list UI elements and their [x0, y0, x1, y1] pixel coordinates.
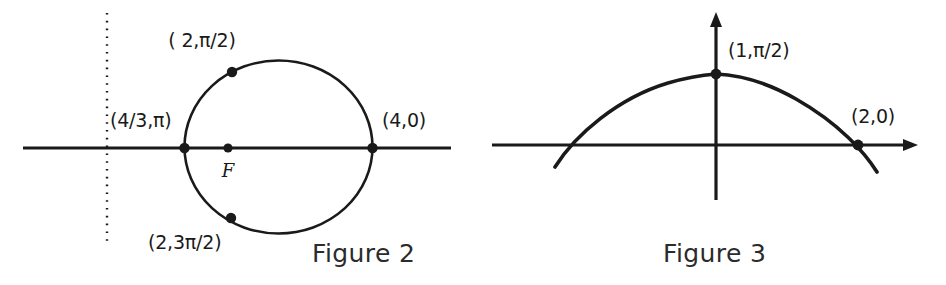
point-marker-right [367, 143, 377, 153]
x-axis-arrow-icon [903, 139, 918, 151]
figures-svg: ( 2,π/2) (4/3,π) (4,0) (2,3π/2) F Figure… [0, 0, 946, 285]
figure-3-group: (1,π/2) (2,0) Figure 3 [492, 12, 918, 268]
label-top-point: ( 2,π/2) [168, 29, 235, 51]
label-peak-point: (1,π/2) [728, 39, 789, 61]
point-marker-x-intercept [853, 140, 864, 151]
figure-sheet: ( 2,π/2) (4/3,π) (4,0) (2,3π/2) F Figure… [0, 0, 946, 285]
caption-figure-3: Figure 3 [663, 239, 766, 268]
point-marker-peak [711, 69, 722, 80]
point-marker-left [179, 143, 189, 153]
figure-2-group: ( 2,π/2) (4/3,π) (4,0) (2,3π/2) F Figure… [23, 13, 451, 268]
caption-figure-2: Figure 2 [312, 239, 415, 268]
point-marker-top [227, 67, 237, 77]
y-axis-arrow-icon [710, 12, 722, 27]
focus-marker [223, 143, 232, 152]
label-left-point: (4/3,π) [110, 109, 171, 131]
label-right-point-figure-3: (2,0) [851, 105, 895, 127]
label-right-point: (4,0) [382, 109, 426, 131]
label-bottom-point: (2,3π/2) [148, 231, 221, 253]
point-marker-bottom [226, 213, 236, 223]
label-focus: F [221, 160, 236, 181]
